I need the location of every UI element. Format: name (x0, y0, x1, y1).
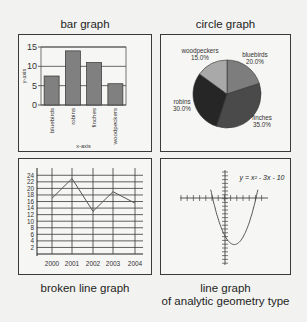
parabola-chart: y = x² - 3x - 10 (0, 0, 307, 322)
equation-label: y = x² - 3x - 10 (239, 174, 285, 182)
